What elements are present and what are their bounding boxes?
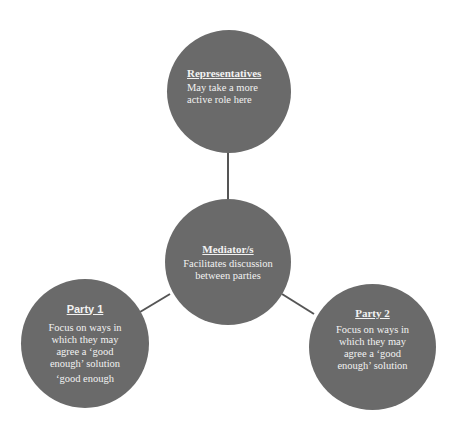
node-body: Focus on ways in which they may agree a … (45, 322, 125, 370)
connector-mediator-party2 (282, 294, 314, 314)
node-body: Focus on ways in which they may agree a … (333, 324, 413, 372)
node-title: Party 2 (355, 307, 390, 320)
node-extra-text: ‘good enough (56, 373, 114, 385)
node-mediator: Mediator/s Facilitates discussion betwee… (165, 199, 291, 325)
node-body: Facilitates discussion between parties (181, 258, 276, 282)
node-representatives: Representatives May take a more active r… (167, 30, 291, 153)
connector-mediator-party1 (140, 294, 170, 312)
node-title: Party 1 (67, 303, 104, 316)
node-title: Mediator/s (202, 243, 253, 256)
node-party-2: Party 2 Focus on ways in which they may … (309, 284, 436, 410)
node-party-1: Party 1 Focus on ways in which they may … (21, 279, 149, 408)
mediation-diagram: Representatives May take a more active r… (0, 0, 455, 432)
node-title: Representatives (187, 67, 261, 80)
node-body: May take a more active role here (187, 82, 277, 106)
